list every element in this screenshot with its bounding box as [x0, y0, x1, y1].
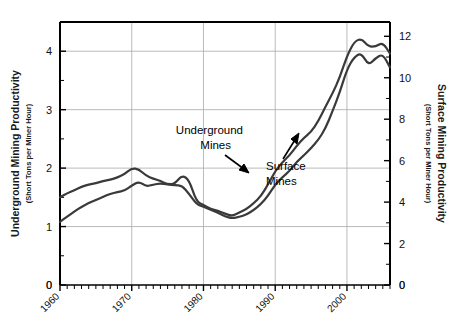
annotation-underground-line2: Mines [200, 139, 231, 151]
ytick-label-left: 3 [46, 104, 52, 116]
ytick-label-right: 6 [399, 155, 405, 167]
ytick-label-left: 4 [46, 45, 52, 57]
y-axis-title-left: Underground Mining Productivity [9, 70, 21, 237]
y-axis-subtitle-left: (Short Tons per Miner Hour) [24, 103, 33, 203]
ytick-label-right: 4 [399, 196, 405, 208]
y-axis-subtitle-right: (Short Tons per Miner Hour) [424, 104, 433, 204]
ytick-label-right: 2 [399, 238, 405, 250]
annotation-underground-line1: Underground [176, 124, 243, 136]
ytick-label-left: 2 [46, 162, 52, 174]
ytick-label-right: 10 [399, 72, 411, 84]
ytick-label-right: 12 [399, 30, 411, 42]
chart-background [0, 0, 453, 325]
chart-container: 012340246810121960197019801990200000Unde… [0, 0, 453, 325]
y-axis-title-right: Surface Mining Productivity [436, 84, 448, 223]
annotation-surface-line1: Surface [266, 160, 306, 172]
ytick-label-left: 1 [46, 221, 52, 233]
annotation-surface-line2: Mines [266, 175, 297, 187]
ytick-label-right-zero: 0 [399, 279, 405, 291]
ytick-label-right: 8 [399, 113, 405, 125]
ytick-label-left-zero: 0 [46, 279, 52, 291]
productivity-line-chart: 012340246810121960197019801990200000Unde… [0, 0, 453, 325]
